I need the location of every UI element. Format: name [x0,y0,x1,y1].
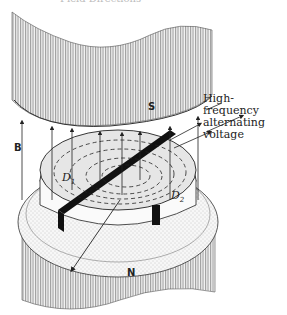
dee-2-label: D2 [171,190,184,204]
voltage-label-line3: voltage [203,129,287,141]
voltage-label-line1: High-frequency [203,93,287,117]
north-pole-label: N [127,268,135,278]
dee-2-subscript: 2 [180,196,184,204]
south-pole-label: S [148,102,155,112]
dee-1-label: D1 [62,172,75,186]
south-pole-magnet [12,12,212,126]
dee-2-letter: D [171,189,180,202]
dee-1-letter: D [62,171,71,184]
magnetic-field-label: B [14,143,22,153]
voltage-label: High-frequency alternating voltage [203,93,287,141]
cyclotron-diagram [0,0,287,315]
dee-1-subscript: 1 [71,178,75,186]
